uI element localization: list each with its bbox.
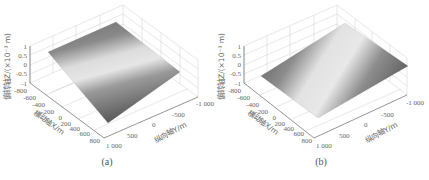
svg-text:0.5: 0.5 [232, 52, 241, 60]
svg-text:1 000: 1 000 [106, 142, 122, 150]
svg-text:1: 1 [238, 43, 242, 51]
svg-text:0: 0 [364, 121, 368, 129]
caption-a: (a) [0, 156, 214, 167]
surface-plot-a: 1 0.5 0 -0.5 -1 偏转轴Z/(×10⁻³ m) -800 -600… [0, 0, 214, 156]
surface-a [48, 22, 180, 123]
z-axis-label: 偏转轴Z/(×10⁻³ m) [2, 33, 12, 100]
surface-plot-b: 1 0.5 0 -0.5 -1 偏转轴Z/(×10⁻³ m) -800 -600… [214, 0, 428, 156]
z-axis-ticks: 1 0.5 0 -0.5 -1 [230, 43, 242, 88]
chart-panel-a: 1 0.5 0 -0.5 -1 偏转轴Z/(×10⁻³ m) -800 -600… [0, 0, 214, 180]
svg-text:800: 800 [302, 137, 313, 145]
svg-text:1: 1 [24, 43, 28, 51]
svg-text:-1 000: -1 000 [406, 99, 425, 107]
z-axis-label: 偏转轴Z/(×10⁻³ m) [216, 33, 226, 100]
y-axis-label: 纵向轴Y/m [363, 119, 399, 144]
caption-b: (b) [214, 156, 428, 167]
chart-panel-b: 1 0.5 0 -0.5 -1 偏转轴Z/(×10⁻³ m) -800 -600… [214, 0, 428, 180]
svg-text:-500: -500 [381, 111, 394, 119]
svg-text:800: 800 [90, 137, 101, 145]
svg-text:0.5: 0.5 [18, 52, 27, 60]
svg-text:-1 000: -1 000 [196, 100, 214, 108]
svg-text:-0.5: -0.5 [16, 70, 28, 78]
svg-text:-500: -500 [172, 111, 185, 119]
svg-text:1 000: 1 000 [316, 142, 332, 150]
svg-text:500: 500 [127, 132, 138, 140]
svg-text:0: 0 [24, 61, 28, 69]
z-axis-ticks: 1 0.5 0 -0.5 -1 [16, 43, 28, 88]
svg-text:0: 0 [152, 121, 156, 129]
svg-text:0: 0 [238, 61, 242, 69]
svg-text:-0.5: -0.5 [230, 70, 242, 78]
y-axis-label: 纵向轴Y/m [152, 119, 188, 144]
svg-text:500: 500 [339, 132, 350, 140]
